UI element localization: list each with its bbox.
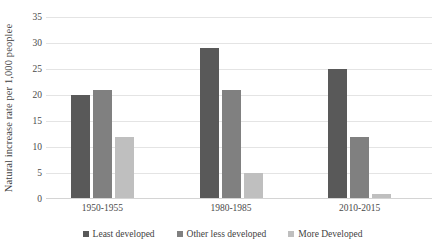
legend-item[interactable]: Least developed <box>83 228 155 240</box>
bar-group <box>328 17 391 199</box>
legend-label: More Developed <box>298 228 362 240</box>
legend-swatch-icon <box>288 231 294 237</box>
y-axis-tick-label: 35 <box>18 12 42 22</box>
bar <box>71 95 90 199</box>
legend-swatch-icon <box>83 231 89 237</box>
y-axis-tick-label: 30 <box>18 38 42 48</box>
bar <box>244 173 263 199</box>
y-axis-tick-label: 5 <box>18 168 42 178</box>
bar <box>350 137 369 199</box>
y-axis-tick-label: 0 <box>18 194 42 204</box>
axis-baseline <box>46 198 432 199</box>
y-axis-tick-label: 25 <box>18 64 42 74</box>
bar <box>222 90 241 199</box>
bar-chart: Natural increase rate per 1,000 peoplee … <box>0 0 445 246</box>
legend-label: Other less developed <box>187 228 267 240</box>
bar-group <box>71 17 134 199</box>
legend-label: Least developed <box>93 228 155 240</box>
bar-groups <box>46 17 432 199</box>
y-axis-tick-label: 15 <box>18 116 42 126</box>
x-axis-tick-label: 1980-1985 <box>176 202 286 215</box>
x-axis-tick-label: 1950-1955 <box>47 202 157 215</box>
legend-item[interactable]: More Developed <box>288 228 362 240</box>
y-axis-tick-label: 10 <box>18 142 42 152</box>
bar <box>93 90 112 199</box>
legend-item[interactable]: Other less developed <box>177 228 267 240</box>
y-axis-tick-labels: 35302520151050 <box>18 0 42 246</box>
x-axis-tick-label: 2010-2015 <box>305 202 415 215</box>
bar-group <box>200 17 263 199</box>
bar <box>115 137 134 199</box>
bar <box>200 48 219 199</box>
x-axis-tick-labels: 1950-19551980-19852010-2015 <box>46 202 432 216</box>
y-axis-title: Natural increase rate per 1,000 peoplee <box>2 8 16 208</box>
plot-area <box>46 17 432 199</box>
y-axis-tick-label: 20 <box>18 90 42 100</box>
bar <box>328 69 347 199</box>
chart-legend: Least developedOther less developedMore … <box>0 227 445 241</box>
legend-swatch-icon <box>177 231 183 237</box>
